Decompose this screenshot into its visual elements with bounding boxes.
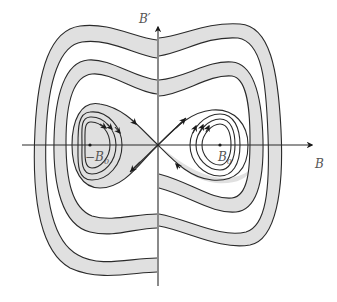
left-fixed-point-dot — [88, 143, 91, 146]
left-fixed-point-label: −B0 — [85, 151, 109, 166]
horizontal-axis-label: B — [315, 158, 324, 170]
phase-portrait-svg — [0, 0, 337, 302]
phase-portrait-diagram: B′ B −B0 B0 — [0, 0, 337, 302]
right-fixed-point-label: B0 — [218, 151, 232, 166]
vertical-axis-label: B′ — [139, 13, 151, 25]
right-fixed-point-dot — [218, 143, 221, 146]
